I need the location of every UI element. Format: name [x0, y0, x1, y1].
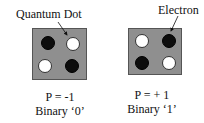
binary-label-right: Binary ‘1’ — [122, 102, 182, 116]
binary-label-left: Binary ‘0’ — [30, 104, 90, 118]
electron-arrow — [171, 16, 178, 31]
polarization-label-right: P = + 1 — [130, 88, 174, 102]
quantum-dot-arrow — [58, 22, 67, 35]
polarization-label-left: P = -1 — [40, 90, 80, 104]
